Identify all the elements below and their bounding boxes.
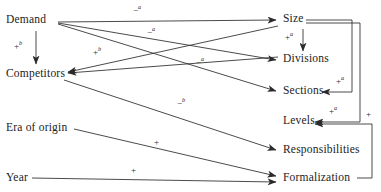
edge-label-demand-competitors: +b (14, 42, 22, 51)
superscript-glyph: a (138, 3, 141, 10)
node-formalization[interactable]: Formalization (283, 172, 350, 184)
node-levels[interactable]: Levels (283, 115, 315, 127)
edge-era-formalization (74, 129, 276, 176)
node-competitors[interactable]: Competitors (6, 68, 65, 80)
sign-glyph: + (154, 137, 159, 147)
superscript-glyph: a (341, 74, 344, 81)
sign-glyph: + (366, 109, 371, 119)
edge-label-size-competitors: +b (93, 48, 101, 57)
causal-path-diagram: Demand Competitors Era of origin Year Si… (0, 0, 381, 192)
edge-label-demand-size: −a (133, 6, 141, 15)
edge-demand-divisions (58, 23, 276, 60)
edge-competitors-responsibilities (64, 80, 276, 150)
edge-year-formalization (32, 178, 276, 182)
superscript-glyph: a (290, 30, 293, 37)
node-demand[interactable]: Demand (6, 14, 46, 26)
node-era-of-origin[interactable]: Era of origin (6, 122, 67, 134)
superscript-glyph: a (201, 55, 204, 62)
edge-label-era-formalization: + (154, 138, 159, 147)
node-divisions[interactable]: Divisions (283, 53, 329, 65)
superscript-glyph: a (334, 104, 337, 111)
edge-label-formalization-levels: + (366, 110, 371, 119)
edge-label-competitors-responsibilities: −b (177, 99, 185, 108)
node-responsibilities[interactable]: Responsibilities (283, 144, 360, 156)
edge-label-demand-divisions: −a (147, 28, 155, 37)
edge-label-year-formalization: + (131, 166, 136, 175)
superscript-glyph: b (98, 45, 101, 52)
node-size[interactable]: Size (283, 13, 304, 25)
edge-demand-sections (58, 24, 276, 91)
edge-label-demand-sections: −a (196, 58, 204, 67)
node-sections[interactable]: Sections (283, 85, 324, 97)
edge-label-size-divisions: +a (285, 33, 293, 42)
node-year[interactable]: Year (6, 172, 28, 184)
superscript-glyph: a (152, 25, 155, 32)
edge-label-size-levels: +a (329, 107, 337, 116)
sign-glyph: + (131, 165, 136, 175)
superscript-glyph: b (182, 96, 185, 103)
edge-layer (0, 0, 381, 192)
edge-label-size-sections: +a (336, 77, 344, 86)
edge-demand-size (58, 20, 276, 22)
superscript-glyph: b (19, 39, 22, 46)
